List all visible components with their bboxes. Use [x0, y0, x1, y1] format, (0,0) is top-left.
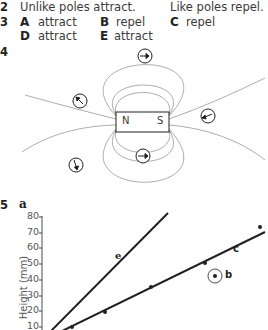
outlier-point — [213, 274, 217, 278]
data-point — [258, 225, 262, 229]
data-point — [70, 325, 74, 329]
outlier-label: b — [225, 269, 232, 280]
series-e-label: e — [115, 250, 121, 261]
data-point — [103, 310, 107, 314]
series-c-label: c — [233, 243, 239, 254]
data-point — [203, 261, 207, 265]
series-e-line — [50, 213, 168, 330]
height-chart — [0, 0, 268, 330]
data-point — [149, 285, 153, 289]
